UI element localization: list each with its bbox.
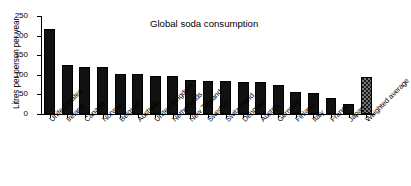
y-axis-tick bbox=[37, 55, 41, 56]
y-axis-tick-label: 50 bbox=[0, 90, 28, 98]
y-axis-tick-label: 150 bbox=[0, 51, 28, 59]
y-axis-tick-label: 250 bbox=[0, 12, 28, 20]
y-axis-tick bbox=[37, 114, 41, 115]
y-axis-tick bbox=[37, 94, 41, 95]
y-axis-tick-label: 0 bbox=[0, 110, 28, 118]
y-axis-tick bbox=[37, 36, 41, 37]
y-axis-tick-label: 100 bbox=[0, 71, 28, 79]
y-axis-tick bbox=[37, 75, 41, 76]
y-axis-tick-label: 200 bbox=[0, 32, 28, 40]
y-axis-tick bbox=[37, 16, 41, 17]
bar bbox=[44, 29, 55, 114]
y-axis-title: Litres per person per year bbox=[12, 12, 21, 116]
y-axis-line bbox=[41, 16, 42, 114]
